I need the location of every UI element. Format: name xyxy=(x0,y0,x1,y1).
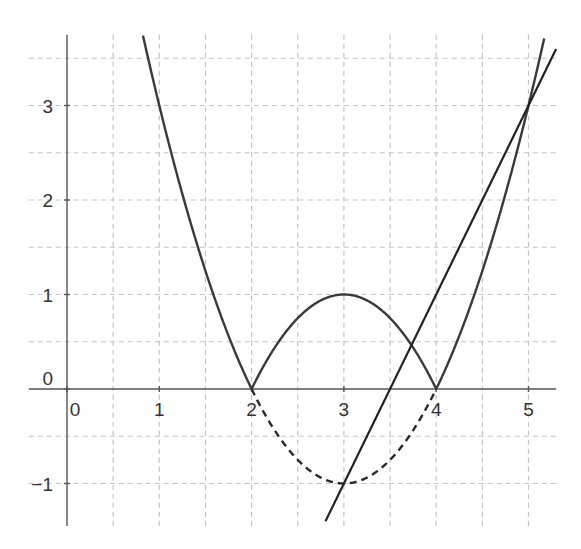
y-tick-label: 0 xyxy=(42,368,53,389)
y-tick-label: −1 xyxy=(31,474,53,495)
x-tick-label: 1 xyxy=(154,399,165,420)
x-tick-label: 3 xyxy=(339,399,350,420)
y-tick-label: 3 xyxy=(42,96,53,117)
y-tick-label: 2 xyxy=(42,190,53,211)
x-tick-label: 5 xyxy=(523,399,534,420)
x-tick-label: 0 xyxy=(70,399,81,420)
chart: 012345−10123 xyxy=(0,0,581,549)
x-tick-label: 2 xyxy=(246,399,257,420)
x-tick-label: 4 xyxy=(431,399,442,420)
y-tick-label: 1 xyxy=(42,285,53,306)
tangent-line xyxy=(325,49,556,521)
